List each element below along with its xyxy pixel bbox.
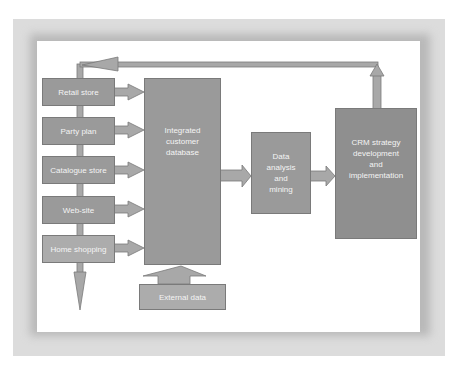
left-arrow-icon xyxy=(82,57,118,71)
external-up-arrow xyxy=(143,266,206,284)
external-data: External data xyxy=(139,284,226,310)
db-to-analysis-arrow xyxy=(220,165,251,187)
integrated-customer-database: Integrated customer database xyxy=(144,78,221,265)
channel-home-shopping: Home shopping xyxy=(42,235,115,263)
analysis-to-crm-arrow xyxy=(310,166,335,186)
channel-catalogue-store: Catalogue store xyxy=(42,156,115,184)
crm-up-shaft xyxy=(373,74,381,109)
crm-strategy-development: CRM strategy development and implementat… xyxy=(335,108,417,239)
down-arrow-icon xyxy=(74,272,86,310)
channel-party-plan: Party plan xyxy=(42,117,115,145)
feedback-bar xyxy=(80,62,378,67)
channel-web-site: Web-site xyxy=(42,196,115,224)
channel-retail-store: Retail store xyxy=(42,78,115,106)
data-analysis-and-mining: Data analysis and mining xyxy=(251,132,311,214)
channel-arrows xyxy=(114,84,144,256)
